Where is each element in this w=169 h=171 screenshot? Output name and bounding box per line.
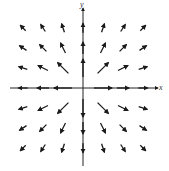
vector-arrow xyxy=(98,63,109,74)
vector-arrow xyxy=(61,123,66,133)
vector-arrow xyxy=(139,46,146,51)
vector-arrow xyxy=(101,123,106,133)
vector-arrow xyxy=(62,24,65,33)
vector-arrow xyxy=(139,107,148,110)
vector-arrow xyxy=(98,103,109,114)
vector-arrow xyxy=(120,45,127,52)
vector-arrow xyxy=(102,24,105,33)
vector-arrow xyxy=(19,126,26,131)
vector-arrow xyxy=(19,107,28,110)
x-axis-label: x xyxy=(159,83,163,92)
vector-arrow xyxy=(38,106,48,111)
vector-arrow xyxy=(20,145,25,150)
vector-arrow xyxy=(19,67,28,70)
vector-arrow xyxy=(120,125,127,132)
vector-arrow xyxy=(101,43,106,53)
vector-arrow xyxy=(118,106,128,111)
vector-arrow xyxy=(140,25,145,30)
vector-arrow xyxy=(62,144,65,153)
vector-arrow xyxy=(40,45,47,52)
vector-arrow xyxy=(121,24,126,31)
vector-arrow xyxy=(61,43,66,53)
y-axis-label: y xyxy=(80,0,84,9)
vector-arrow xyxy=(40,125,47,132)
vector-arrow xyxy=(58,103,69,114)
vector-arrow xyxy=(38,66,48,71)
vector-arrow xyxy=(41,24,46,31)
vector-arrow xyxy=(20,25,25,30)
vector-field-plot xyxy=(0,0,169,171)
vector-arrow xyxy=(58,63,69,74)
vector-arrow xyxy=(140,145,145,150)
vector-arrow xyxy=(139,126,146,131)
vector-arrow xyxy=(118,66,128,71)
vector-arrow xyxy=(139,67,148,70)
vector-arrow xyxy=(19,46,26,51)
vector-arrow xyxy=(121,144,126,151)
vector-arrow xyxy=(41,144,46,151)
vector-arrow xyxy=(102,144,105,153)
